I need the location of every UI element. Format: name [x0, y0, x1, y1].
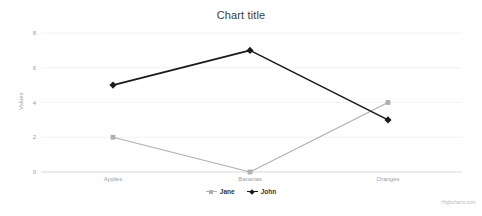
y-axis-title: Values	[18, 81, 24, 121]
plot-area	[0, 0, 482, 216]
data-point	[384, 116, 391, 123]
ytick-8: 8	[14, 30, 36, 36]
data-point	[109, 82, 116, 89]
data-point	[246, 47, 253, 54]
legend-marker-jane-icon	[206, 189, 217, 195]
legend-item-jane[interactable]: Jane	[206, 188, 235, 195]
ytick-6: 6	[14, 65, 36, 71]
chart-container: Chart title 8 6 4 2 0	[0, 0, 482, 216]
legend-item-john[interactable]: John	[247, 188, 277, 195]
data-point	[111, 135, 116, 140]
credits-link[interactable]: Highcharts.com	[441, 199, 476, 205]
ytick-0: 0	[14, 169, 36, 175]
legend-marker-john-icon	[247, 189, 258, 195]
chart-legend: Jane John	[0, 188, 482, 195]
xtick-oranges: Oranges	[353, 176, 423, 182]
legend-label-john: John	[261, 188, 277, 195]
y-axis-ticks: 8 6 4 2 0 Values	[14, 0, 36, 216]
series-john	[109, 47, 391, 124]
ytick-2: 2	[14, 134, 36, 140]
data-point	[386, 100, 391, 105]
xtick-bananas: Bananas	[215, 176, 285, 182]
legend-label-jane: Jane	[220, 188, 235, 195]
xtick-apples: Apples	[78, 176, 148, 182]
data-point	[248, 170, 253, 175]
